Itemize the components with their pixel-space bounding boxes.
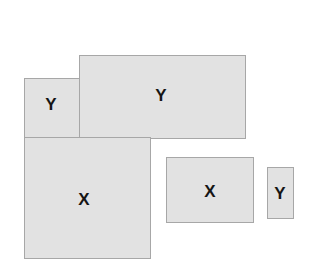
rect-x-middle-label: X — [204, 183, 215, 200]
rect-y-right-label: Y — [274, 185, 285, 202]
rect-y-top-label: Y — [155, 87, 166, 104]
rect-y-left-label: Y — [45, 96, 56, 113]
rect-x-large-label: X — [78, 191, 89, 208]
figure-canvas: YYXXY — [0, 0, 319, 265]
